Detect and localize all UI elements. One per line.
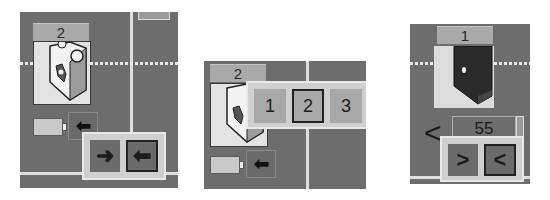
compare-greater-button[interactable]: > (448, 144, 478, 176)
battery-terminal (239, 161, 244, 169)
panel-middle: 2 arrow-left-icon ⬅ 1 2 3 (204, 61, 366, 189)
data-wire (494, 62, 530, 65)
panel-left: 2 ⬅ ➜ ⬅ (20, 12, 178, 188)
data-wire (20, 62, 33, 65)
port-number-label[interactable]: 1 (437, 26, 493, 44)
panel-right: 1 < 55 > < (410, 24, 530, 184)
motor-block-icon (34, 42, 90, 104)
arrow-right-icon: ➜ (96, 143, 114, 169)
direction-popup: ➜ ⬅ (82, 132, 166, 180)
direction-toggle[interactable]: arrow-left-icon ⬅ (246, 150, 276, 178)
sequence-wire-vertical (130, 12, 133, 142)
compare-less-button[interactable]: < (484, 144, 516, 176)
data-wire (410, 62, 434, 65)
port-popup: 1 2 3 (246, 81, 366, 129)
port-option-3[interactable]: 3 (330, 89, 362, 123)
direction-forward-button[interactable]: ➜ (90, 140, 120, 172)
data-wire (90, 62, 178, 65)
battery-icon (33, 118, 63, 136)
port-number-label[interactable]: 2 (33, 23, 89, 41)
sensor-block[interactable] (434, 46, 494, 108)
arrow-left-glyph: ⬅ (254, 153, 269, 175)
motor-block[interactable] (33, 41, 91, 105)
port-number-label[interactable]: 2 (210, 64, 266, 82)
chevron-left-icon: < (494, 147, 507, 173)
port-option-1[interactable]: 1 (254, 89, 286, 123)
battery-terminal (62, 123, 67, 131)
compare-less-than-icon[interactable]: < (424, 118, 442, 148)
battery-icon (210, 156, 240, 174)
top-block-edge (138, 12, 170, 20)
chevron-right-icon: > (457, 147, 470, 173)
compare-popup: > < (440, 136, 524, 182)
arrow-left-icon: ⬅ (133, 143, 151, 169)
direction-reverse-button[interactable]: ⬅ (126, 140, 158, 172)
port-option-2[interactable]: 2 (292, 89, 324, 123)
dark-sensor-block-icon (434, 46, 494, 108)
